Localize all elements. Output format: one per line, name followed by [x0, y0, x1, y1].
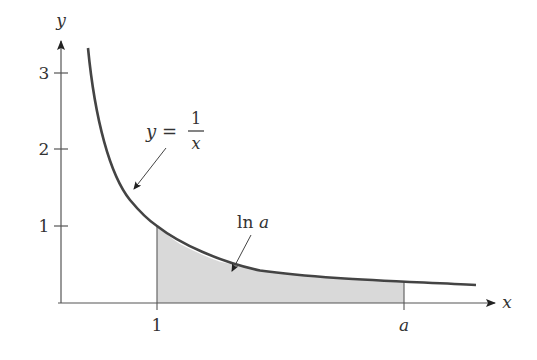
y-tick-label-1: 1 [39, 216, 50, 236]
y-axis-label: y [55, 10, 66, 30]
area-label-fn: ln [237, 212, 253, 232]
x-tick-label-a: a [399, 315, 409, 335]
y-tick-label-3: 3 [39, 63, 50, 83]
shaded-area-ln-a [157, 226, 404, 303]
area-label-arg: a [259, 212, 269, 232]
x-tick-label-1: 1 [152, 315, 163, 335]
curve-label-denominator: x [191, 134, 200, 153]
curve-label-numerator: 1 [191, 109, 201, 128]
diagram-canvas: y x 3 2 1 1 a y = 1 x ln a [0, 0, 537, 360]
x-axis-label: x [502, 292, 512, 312]
y-tick-label-2: 2 [39, 139, 50, 159]
curve-y-equals-1-over-x [88, 48, 476, 285]
curve-label-prefix: y = [145, 121, 177, 142]
curve-label-arrow [134, 148, 166, 189]
